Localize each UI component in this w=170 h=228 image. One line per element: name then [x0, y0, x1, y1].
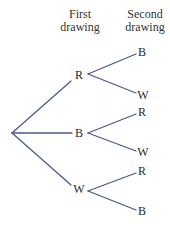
node-second-B-R: R [138, 106, 146, 118]
node-second-R-W: W [137, 89, 148, 101]
edge-root-to-W [12, 133, 71, 185]
node-second-W-B: B [138, 205, 146, 217]
edge-W-to-R [88, 173, 136, 191]
node-second-B-W: W [137, 146, 148, 158]
node-first-W: W [73, 183, 84, 195]
probability-tree-diagram: First drawing Second drawing R B W B W R… [0, 0, 170, 228]
edge-root-to-R [12, 81, 71, 133]
edge-B-to-W [88, 133, 136, 151]
edge-B-to-R [88, 114, 136, 133]
node-first-R: R [75, 69, 83, 81]
edge-R-to-B [88, 54, 136, 74]
node-second-W-R: R [138, 165, 146, 177]
node-first-B: B [75, 127, 83, 139]
edge-W-to-B [88, 191, 136, 210]
node-second-R-B: B [138, 46, 146, 58]
edge-R-to-W [88, 74, 136, 93]
